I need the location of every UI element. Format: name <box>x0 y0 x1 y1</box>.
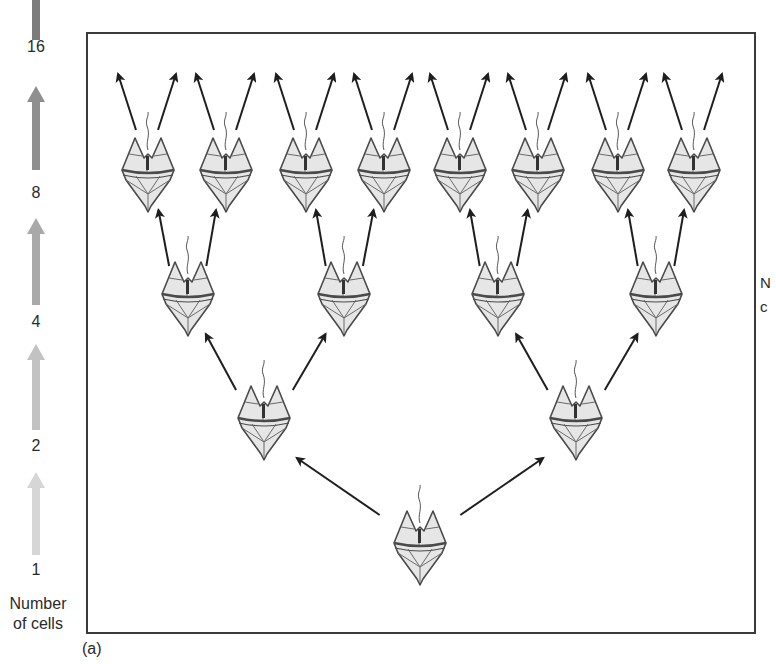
division-arrow-icon <box>316 210 326 266</box>
panel-label: (a) <box>82 640 102 658</box>
axis-tick-2: 2 <box>6 437 66 455</box>
division-arrow-icon <box>674 210 684 266</box>
division-arrow-icon <box>363 210 374 266</box>
division-arrow-icon <box>470 210 480 266</box>
division-arrow-icon <box>276 74 294 130</box>
division-arrow-icon <box>664 74 682 130</box>
division-arrow-icon <box>704 74 722 130</box>
dinoflagellate-cell-icon <box>472 236 524 336</box>
dinoflagellate-cell-icon <box>162 236 214 336</box>
dinoflagellate-cell-icon <box>122 112 174 212</box>
division-arrow-icon <box>628 210 638 266</box>
dinoflagellate-cell-icon <box>394 485 446 585</box>
axis-tick-8: 8 <box>6 184 66 202</box>
dinoflagellate-cell-icon <box>434 112 486 212</box>
dinoflagellate-cell-icon <box>280 112 332 212</box>
axis-tick-1: 1 <box>6 561 66 579</box>
division-arrow-icon <box>316 74 334 130</box>
division-arrow-icon <box>470 74 488 130</box>
dinoflagellate-cell-icon <box>668 112 720 212</box>
fission-tree <box>0 0 776 664</box>
axis-title-line-2: of cells <box>0 614 76 634</box>
dinoflagellate-cell-icon <box>630 236 682 336</box>
dinoflagellate-cell-icon <box>238 360 290 460</box>
cut-off-label-1: N <box>760 274 771 291</box>
dinoflagellate-cell-icon <box>512 112 564 212</box>
division-arrow-icon <box>196 74 214 130</box>
division-arrow-icon <box>508 74 526 130</box>
division-arrow-icon <box>158 210 169 266</box>
axis-title-line-1: Number <box>0 594 76 614</box>
division-arrow-icon <box>548 74 566 130</box>
axis-title: Number of cells <box>0 594 76 634</box>
division-arrow-icon <box>158 74 176 130</box>
division-arrow-icon <box>628 74 646 130</box>
division-arrow-icon <box>297 458 380 515</box>
division-arrow-icon <box>236 74 254 130</box>
cut-off-label-2: c <box>760 298 768 315</box>
dinoflagellate-cell-icon <box>200 112 252 212</box>
division-arrow-icon <box>517 210 528 266</box>
axis-tick-4: 4 <box>6 313 66 331</box>
division-arrow-icon <box>430 74 448 130</box>
division-arrow-icon <box>516 334 548 390</box>
axis-tick-16: 16 <box>6 38 66 56</box>
division-arrow-icon <box>293 334 326 390</box>
division-arrow-icon <box>354 74 372 130</box>
division-arrow-icon <box>460 458 543 515</box>
division-arrow-icon <box>394 74 412 130</box>
dinoflagellate-cell-icon <box>358 112 410 212</box>
dinoflagellate-cell-icon <box>318 236 370 336</box>
dinoflagellate-cell-icon <box>592 112 644 212</box>
dinoflagellate-cell-icon <box>550 360 602 460</box>
division-arrow-icon <box>206 210 216 266</box>
division-arrow-icon <box>206 334 236 390</box>
division-arrow-icon <box>588 74 606 130</box>
division-arrow-icon <box>605 334 638 390</box>
division-arrow-icon <box>118 74 136 130</box>
